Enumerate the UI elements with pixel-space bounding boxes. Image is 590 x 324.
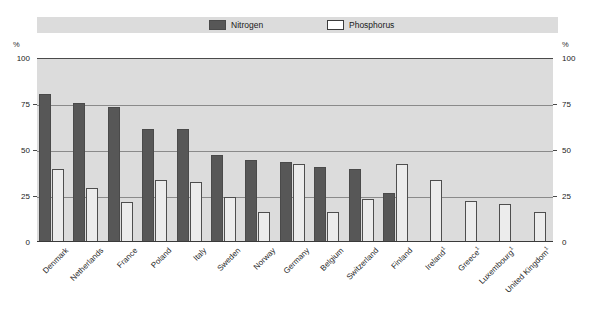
bar-phosphorus (396, 164, 408, 241)
bar-group (519, 59, 553, 241)
bar-phosphorus (52, 169, 64, 241)
bar-group (278, 59, 312, 241)
bar-nitrogen (39, 94, 51, 241)
bar-phosphorus (258, 212, 270, 241)
bar-nitrogen (245, 160, 257, 241)
x-axis-category-labels: DenmarkNetherlandsFrancePolandItalySwede… (0, 242, 590, 324)
bar-nitrogen (349, 169, 361, 241)
chart-figure: Nitrogen Phosphorus % % 0025255050757510… (0, 0, 590, 324)
y-tick-label-left-25: 25 (14, 192, 30, 201)
legend-item-nitrogen: Nitrogen (209, 19, 263, 31)
bar-nitrogen (142, 129, 154, 241)
bar-group (243, 59, 277, 241)
legend-item-phosphorus: Phosphorus (327, 19, 394, 31)
chart-legend: Nitrogen Phosphorus (37, 17, 558, 33)
bar-group (415, 59, 449, 241)
bar-group (71, 59, 105, 241)
y-tick-label-right-100: 100 (562, 54, 582, 63)
bar-group (312, 59, 346, 241)
bar-nitrogen (177, 129, 189, 241)
y-tick-label-right-25: 25 (562, 192, 582, 201)
bar-group (450, 59, 484, 241)
bar-phosphorus (430, 180, 442, 241)
bar-nitrogen (383, 193, 395, 241)
bar-group (140, 59, 174, 241)
left-axis-unit-label: % (13, 40, 20, 49)
bar-nitrogen (73, 103, 85, 241)
plot-area (37, 58, 553, 242)
bar-nitrogen (108, 107, 120, 241)
right-axis-unit-label: % (562, 40, 569, 49)
bar-group (347, 59, 381, 241)
bar-phosphorus (534, 212, 546, 241)
y-tick-label-left-100: 100 (14, 54, 30, 63)
bar-phosphorus (121, 202, 133, 241)
bar-group (106, 59, 140, 241)
bar-phosphorus (362, 199, 374, 241)
bar-nitrogen (280, 162, 292, 241)
y-tick-label-right-50: 50 (562, 146, 582, 155)
bar-group (175, 59, 209, 241)
bar-group (484, 59, 518, 241)
bar-group (209, 59, 243, 241)
bar-phosphorus (190, 182, 202, 241)
bar-phosphorus (155, 180, 167, 241)
y-tick-label-right-75: 75 (562, 100, 582, 109)
bar-phosphorus (293, 164, 305, 241)
legend-label-nitrogen: Nitrogen (231, 20, 263, 30)
bar-phosphorus (499, 204, 511, 241)
y-tick-mark-right-50 (553, 150, 557, 151)
bar-phosphorus (224, 197, 236, 241)
filled-square-swatch-icon (209, 20, 226, 30)
bar-phosphorus (465, 201, 477, 241)
bar-group (37, 59, 71, 241)
bar-group (381, 59, 415, 241)
bar-phosphorus (86, 188, 98, 241)
y-tick-mark-right-75 (553, 104, 557, 105)
bars-layer (37, 59, 553, 241)
bar-phosphorus (327, 212, 339, 241)
y-tick-mark-right-25 (553, 196, 557, 197)
legend-label-phosphorus: Phosphorus (349, 20, 394, 30)
bar-nitrogen (314, 167, 326, 241)
bar-nitrogen (211, 155, 223, 241)
y-tick-label-left-50: 50 (14, 146, 30, 155)
outlined-square-swatch-icon (327, 20, 344, 30)
y-tick-label-left-75: 75 (14, 100, 30, 109)
